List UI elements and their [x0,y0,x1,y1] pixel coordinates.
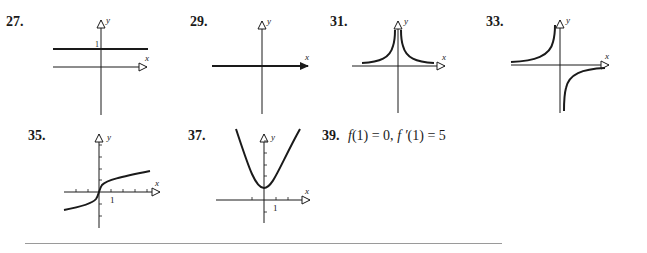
y-axis-label: y [105,15,110,25]
curve-right-branch [564,68,605,111]
y-axis-label: y [106,132,111,142]
tick-label-1: 1 [95,40,99,49]
x-axis-label: x [154,178,159,188]
curve-cube-root [64,171,150,210]
graph-35: y x 1 [64,132,160,228]
section-divider [25,243,502,244]
graphs-canvas: y x 1 y x y x y x [0,0,647,253]
graph-37: y x 1 [216,129,310,223]
graph-31: y x [352,16,446,113]
x-axis-label: x [304,186,309,196]
tick-label-1: 1 [110,195,115,205]
curve-left-branch [362,30,395,63]
curve-left-branch [511,25,555,62]
y-axis-label: y [403,16,408,26]
graph-33: y x [511,15,609,113]
curve-right-branch [401,30,434,63]
y-axis-label: y [270,132,275,142]
x-axis-label: x [441,52,446,62]
graph-27: y x 1 [53,15,149,115]
x-axis-label: x [144,53,149,63]
curve-parabola [236,129,300,188]
graph-29: y x [212,16,309,114]
y-axis-label: y [266,16,271,26]
x-axis-label: x [604,51,609,61]
x-axis-label: x [304,52,309,62]
y-axis-label: y [565,15,570,25]
tick-label-1: 1 [273,203,278,213]
